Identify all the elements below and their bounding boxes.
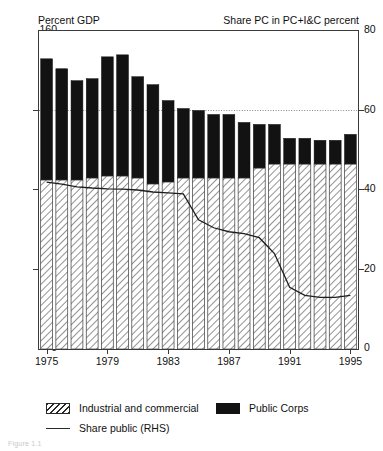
axis-tick-mark (33, 189, 39, 190)
bar-segment-industrial-and-commercial (117, 176, 129, 349)
bar-segment-industrial-and-commercial (299, 164, 311, 349)
bar-segment-industrial-and-commercial (56, 180, 68, 349)
bar-segment-public-corps (223, 114, 235, 178)
x-axis-tick-mark (229, 350, 230, 354)
hatch-pattern-icon (46, 403, 70, 414)
bar-segment-public-corps (284, 138, 296, 164)
axis-tick-mark (358, 269, 364, 270)
right-axis-title: Share PC in PC+I&C percent (223, 14, 359, 26)
bar-segment-public-corps (299, 138, 311, 164)
bar-segment-industrial-and-commercial (238, 178, 250, 349)
bar-segment-public-corps (193, 111, 205, 179)
legend-label: Public Corps (249, 402, 309, 414)
bar-segment-public-corps (101, 57, 113, 176)
legend-label: Share public (RHS) (79, 422, 169, 434)
bar-segment-industrial-and-commercial (86, 178, 98, 349)
bar-segment-industrial-and-commercial (147, 184, 159, 349)
legend-item-industrial-and-commercial: Industrial and commercial (46, 402, 216, 414)
axis-tick-mark (33, 110, 39, 111)
bar-segment-industrial-and-commercial (208, 178, 220, 349)
x-axis-tick-mark (107, 350, 108, 354)
y-axis-right-tick-label: 80 (364, 23, 383, 35)
bar-segment-public-corps (147, 85, 159, 184)
line-icon (46, 428, 70, 429)
bar-segment-public-corps (314, 140, 326, 164)
figure-chart: Percent GDP Share PC in PC+I&C percent 0… (0, 0, 383, 451)
bar-segment-industrial-and-commercial (314, 164, 326, 349)
solid-black-icon (216, 403, 240, 414)
y-axis-right-tick-label: 60 (364, 103, 383, 115)
chart-legend: Industrial and commercial Public Corps S… (46, 398, 376, 438)
bar-segment-industrial-and-commercial (284, 164, 296, 349)
bar-segment-industrial-and-commercial (71, 180, 83, 349)
bar-segment-public-corps (238, 122, 250, 178)
x-axis-tick-label: 1995 (339, 355, 362, 367)
bar-segment-public-corps (162, 101, 174, 182)
bar-segment-industrial-and-commercial (344, 164, 356, 349)
bar-segment-industrial-and-commercial (269, 164, 281, 349)
x-axis-tick-mark (350, 350, 351, 354)
bar-segment-public-corps (208, 114, 220, 178)
bar-segment-industrial-and-commercial (101, 176, 113, 349)
bar-segment-public-corps (329, 140, 341, 164)
figure-caption: Figure 1.1 (8, 440, 42, 447)
plot-area (38, 30, 359, 350)
bar-segment-industrial-and-commercial (253, 168, 265, 349)
bar-segment-industrial-and-commercial (162, 182, 174, 349)
bar-segment-public-corps (132, 77, 144, 178)
y-axis-right-tick-label: 0 (364, 341, 383, 353)
axis-tick-mark (358, 189, 364, 190)
bar-segment-public-corps (117, 55, 129, 176)
bar-segment-public-corps (269, 124, 281, 164)
x-axis-tick-label: 1991 (278, 355, 301, 367)
chart-canvas (39, 31, 358, 349)
y-axis-right-tick-label: 20 (364, 262, 383, 274)
bar-segment-public-corps (86, 79, 98, 178)
bar-segment-industrial-and-commercial (177, 178, 189, 349)
legend-label: Industrial and commercial (79, 402, 199, 414)
legend-item-share-public-rhs: Share public (RHS) (46, 422, 216, 434)
y-axis-right-tick-label: 40 (364, 182, 383, 194)
legend-item-public-corps: Public Corps (216, 402, 309, 414)
x-axis-tick-label: 1983 (156, 355, 179, 367)
x-axis-tick-mark (168, 350, 169, 354)
bar-segment-industrial-and-commercial (132, 178, 144, 349)
bar-segment-public-corps (177, 109, 189, 179)
bar-segment-public-corps (71, 81, 83, 180)
bar-segment-industrial-and-commercial (41, 180, 53, 349)
bar-segment-public-corps (344, 134, 356, 164)
bar-segment-industrial-and-commercial (193, 178, 205, 349)
x-axis-tick-label: 1987 (217, 355, 240, 367)
axis-tick-mark (33, 269, 39, 270)
bar-segment-public-corps (56, 69, 68, 180)
bar-segment-public-corps (253, 124, 265, 168)
x-axis-tick-label: 1975 (35, 355, 58, 367)
x-axis-tick-mark (290, 350, 291, 354)
axis-tick-mark (358, 110, 364, 111)
bar-segment-industrial-and-commercial (329, 164, 341, 349)
bar-segment-industrial-and-commercial (223, 178, 235, 349)
x-axis-tick-mark (47, 350, 48, 354)
x-axis-tick-label: 1979 (96, 355, 119, 367)
bar-segment-public-corps (41, 59, 53, 180)
